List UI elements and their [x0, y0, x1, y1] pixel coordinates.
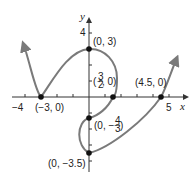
point-neg3-0	[38, 94, 44, 100]
label-0-neg4third: (0, − 4 3 )	[94, 115, 123, 134]
curve	[26, 49, 176, 153]
point-4.5-0	[158, 94, 164, 100]
graph: x y −4 5 4 (−3, 0) (0, 3) (4.5, 0) (0, −…	[0, 0, 196, 176]
label-4.5-0: (4.5, 0)	[135, 77, 167, 88]
tick-label-5: 5	[166, 102, 172, 113]
point-3half-0	[110, 94, 116, 100]
svg-text:(0, −: (0, −	[94, 120, 114, 131]
svg-text:): )	[120, 120, 123, 131]
label-neg3-0: (−3, 0)	[35, 102, 64, 113]
label-3half-0: ( 3 2 , 0)	[93, 71, 116, 90]
point-0-neg4third	[86, 115, 92, 121]
point-0-3	[86, 46, 92, 52]
tick-label-4: 4	[80, 27, 86, 38]
y-axis	[89, 20, 92, 172]
labeled-points	[38, 46, 164, 156]
label-0-neg3.5: (0, −3.5)	[48, 158, 86, 169]
x-axis-label: x	[179, 100, 185, 112]
point-0-neg3.5	[86, 150, 92, 156]
label-0-3: (0, 3)	[93, 36, 116, 47]
svg-text:, 0): , 0)	[102, 76, 116, 87]
y-axis-label: y	[79, 10, 85, 22]
svg-text:(: (	[93, 76, 97, 87]
tick-label-neg4: −4	[12, 102, 24, 113]
